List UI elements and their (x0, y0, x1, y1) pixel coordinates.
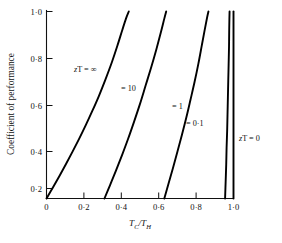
x-tick-label: 0 (44, 202, 48, 212)
coefficient-of-performance-chart: 1·0 0·8 0·6 0·4 0·2 0 0·2 0·4 0·6 0·8 1·… (0, 0, 282, 243)
curve-zt-0-1 (225, 12, 229, 199)
y-axis-title-text: Coefficient of performance (6, 53, 16, 155)
x-tick-label: 1·0 (228, 202, 239, 212)
x-tick-label: 0·8 (190, 202, 201, 212)
curve-label-rest: T = 0 (242, 134, 260, 143)
curve-zt-10 (104, 12, 166, 199)
curve-label-rest: T = ∞ (77, 65, 96, 74)
y-axis-title: Coefficient of performance (6, 53, 16, 155)
x-axis-title: TC/TH (129, 218, 152, 230)
y-tick-labels: 1·0 0·8 0·6 0·4 0·2 (31, 7, 43, 194)
x-tick-label: 0·4 (116, 202, 128, 212)
y-tick-label: 1·0 (31, 7, 42, 17)
y-axis-ticks (47, 12, 53, 189)
y-tick-label: 0·4 (31, 147, 43, 157)
curve-label-zt-infinity: zT = ∞ (74, 66, 97, 74)
y-tick-label: 0·8 (31, 54, 42, 64)
curve-zt-1 (164, 12, 208, 199)
x-axis-ticks (47, 193, 234, 199)
curve-label-zt-0-1: = 0·1 (186, 120, 204, 128)
x-tick-label: 0·2 (78, 202, 89, 212)
x-tick-label: 0·6 (153, 202, 165, 212)
curve-label-zt-10: = 10 (121, 85, 136, 93)
curve-label-rest: = 1 (172, 102, 183, 111)
svg-text:TC/TH: TC/TH (129, 218, 152, 230)
curve-label-rest: = 0·1 (186, 119, 204, 128)
curves-group (47, 12, 234, 199)
x-axis-title-trail-sub: H (145, 223, 152, 230)
y-tick-label: 0·6 (31, 101, 43, 111)
curve-label-rest: = 10 (121, 84, 136, 93)
y-tick-label: 0·2 (31, 184, 42, 194)
curve-label-zt-0: zT = 0 (239, 135, 260, 143)
x-tick-labels: 0 0·2 0·4 0·6 0·8 1·0 (44, 202, 239, 212)
figure-container: 1·0 0·8 0·6 0·4 0·2 0 0·2 0·4 0·6 0·8 1·… (0, 0, 282, 243)
curve-label-zt-1: = 1 (172, 103, 183, 111)
